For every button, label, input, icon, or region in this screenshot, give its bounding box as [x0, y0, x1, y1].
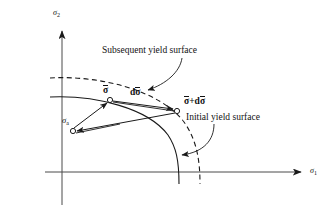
sigma-bar-plus-d-sigma-label: σ+dσ: [184, 97, 205, 107]
sigma-bar-symbol: σ: [103, 86, 108, 96]
x-axis-label: σ1: [310, 167, 317, 176]
subsequent-yield-surface-label: Subsequent yield surface: [102, 46, 197, 56]
arrow-back-stress-to-sigma-bar: [74, 103, 107, 128]
d-sigma-bar-symbol: σ: [135, 88, 140, 98]
diagram-canvas: [0, 0, 327, 224]
x-axis-label-subscript: 1: [314, 170, 317, 176]
initial-yield-surface-curve: [50, 97, 179, 184]
line-back-stress-tail: [76, 124, 120, 133]
yield-surface-figure: σ2 σ1 Subsequent yield surface Initial y…: [0, 0, 327, 224]
sigma-bar-plus-d-sigma-second: σ: [200, 97, 205, 107]
marker-sigma-bar: [107, 97, 112, 102]
arrow-endpoint-to-back-stress: [77, 113, 175, 131]
arrow-d-sigma-bar: [113, 101, 173, 109]
sigma-bar-plus-d-sigma-first: σ: [184, 97, 189, 107]
leader-initial-yield-surface: [182, 124, 214, 155]
y-axis-label: σ2: [53, 9, 60, 18]
vector-arrows: [74, 101, 175, 133]
marker-back-stress: [70, 128, 75, 133]
marker-sigma-bar-plus-d-sigma: [174, 108, 179, 113]
d-sigma-bar-label: dσ: [130, 88, 140, 98]
y-axis-label-subscript: 2: [57, 12, 60, 18]
sigma-bar-label: σ: [103, 86, 108, 96]
back-stress-label: σa: [62, 116, 69, 126]
leader-subsequent-yield-surface: [148, 58, 182, 90]
initial-yield-surface-label: Initial yield surface: [186, 113, 260, 123]
back-stress-subscript: a: [66, 120, 69, 126]
axis-lines: [45, 31, 301, 205]
